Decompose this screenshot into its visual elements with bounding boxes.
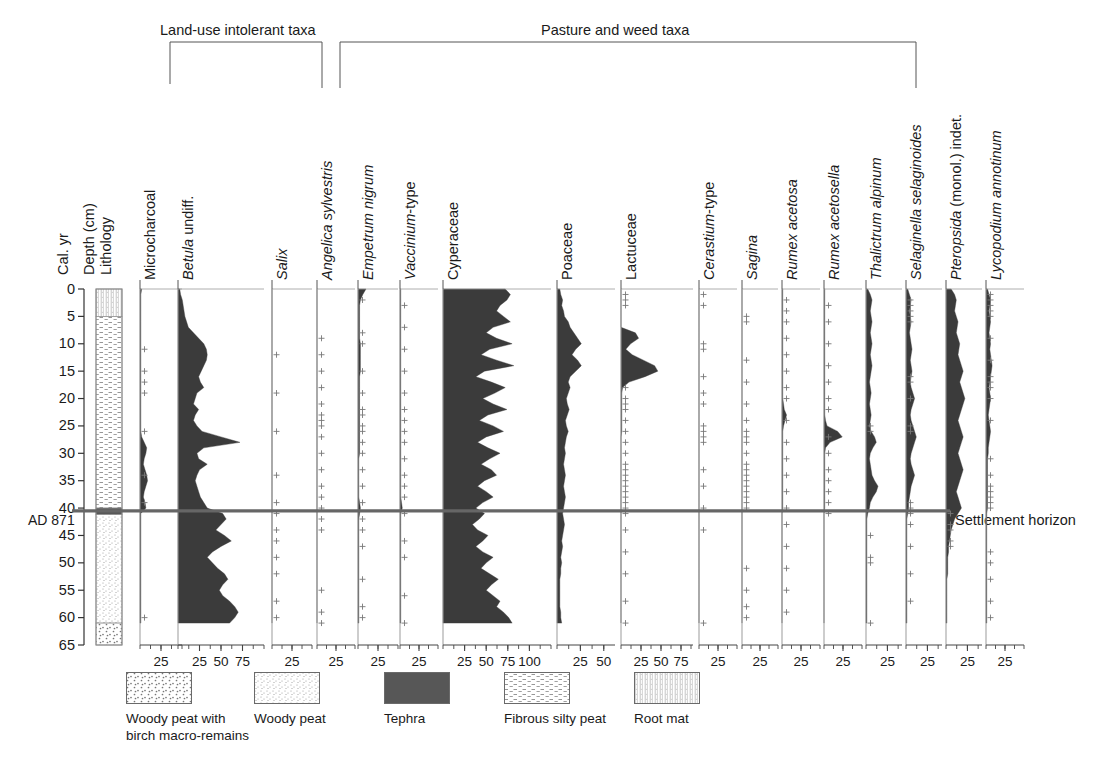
taxon-column: 255075 (178, 280, 264, 669)
taxon-column: 25 (986, 280, 1024, 669)
taxon-column: 255075 (621, 280, 693, 669)
legend-item: Fibrous silty peat (504, 672, 606, 726)
x-tick-label: 100 (518, 654, 541, 669)
taxon-column: 255075100 (443, 280, 551, 669)
legend-label: Woody peat (254, 711, 326, 726)
depth-tick-label: 65 (59, 637, 75, 653)
taxon-label: Cerastium-type (702, 182, 717, 280)
depth-tick-label: 0 (67, 281, 75, 297)
legend-item: Woody peat (254, 672, 326, 726)
x-tick-label: 25 (633, 654, 648, 669)
taxon-label: Rumex acetosella (827, 165, 842, 280)
depth-tick-label: 5 (67, 308, 75, 324)
taxon-label: Selaginella selaginoides (909, 124, 924, 280)
taxon-curve (557, 289, 581, 623)
taxon-column: 2550 (557, 280, 615, 669)
x-tick-label: 75 (673, 654, 688, 669)
x-tick-label: 50 (596, 654, 611, 669)
taxon-curve (906, 289, 916, 623)
depth-tick-label: 30 (59, 445, 75, 461)
plot-canvas: 0510152025303540455055606525255075252525… (0, 0, 1110, 700)
x-tick-label: 75 (235, 654, 250, 669)
legend-swatch-solid-grey (384, 672, 450, 704)
depth-tick-label: 35 (59, 472, 75, 488)
taxon-column: 25 (317, 280, 355, 669)
x-tick-label: 75 (500, 654, 515, 669)
taxon-column: 25 (782, 280, 820, 669)
depth-tick-label: 10 (59, 335, 75, 351)
depth-tick-label: 25 (59, 417, 75, 433)
legend-swatch-dots-coarse (126, 672, 192, 704)
taxon-column: 25 (272, 280, 312, 669)
lithology-column (96, 289, 122, 645)
legend-item: Tephra (384, 672, 450, 726)
taxon-label: Salix (275, 249, 290, 280)
depth-tick-label: 55 (59, 582, 75, 598)
depth-tick-label: 15 (59, 363, 75, 379)
taxon-label: Sagina (745, 235, 760, 280)
x-tick-label: 25 (370, 654, 385, 669)
x-tick-label: 50 (213, 654, 228, 669)
legend-item: Root mat (634, 672, 700, 726)
taxon-curve (140, 289, 148, 623)
taxon-column: 25 (140, 280, 182, 669)
legend-item: Woody peat withbirch macro-remains (126, 672, 249, 743)
taxon-column: 25 (824, 280, 862, 669)
taxon-label: Betula undiff. (181, 196, 196, 280)
taxon-label: Angelica sylvestris (320, 161, 335, 280)
taxon-curve (621, 289, 658, 623)
x-tick-label: 25 (192, 654, 207, 669)
taxon-label: Lactuceae (624, 213, 639, 280)
depth-tick-label: 20 (59, 390, 75, 406)
taxon-label: Cyperaceae (446, 202, 461, 280)
taxon-label: Poaceae (560, 223, 575, 280)
taxon-column: 25 (866, 280, 902, 669)
x-tick-label: 25 (710, 654, 725, 669)
taxon-curve (358, 289, 366, 623)
depth-tick-label: 40 (59, 500, 75, 516)
taxon-curve (946, 289, 965, 623)
x-tick-label: 25 (793, 654, 808, 669)
taxon-label: Pteropsida (monol.) indet. (949, 114, 964, 280)
x-tick-label: 25 (880, 654, 895, 669)
x-tick-label: 25 (153, 654, 168, 669)
x-tick-label: 25 (457, 654, 472, 669)
taxon-curve (782, 289, 787, 623)
taxon-curve (178, 289, 240, 623)
legend-label: Woody peat with (126, 711, 249, 726)
depth-tick-label: 45 (59, 527, 75, 543)
x-tick-label: 25 (835, 654, 850, 669)
taxon-curve (443, 289, 514, 623)
legend-swatch-dots-fine (254, 672, 320, 704)
x-tick-label: 25 (920, 654, 935, 669)
x-tick-label: 25 (573, 654, 588, 669)
depth-tick-label: 50 (59, 554, 75, 570)
taxon-label: Microcharcoal (143, 190, 158, 280)
lithology-legend: Woody peat withbirch macro-remainsWoody … (126, 672, 686, 742)
taxon-label: Vaccinium-type (403, 181, 418, 280)
x-tick-label: 25 (960, 654, 975, 669)
x-tick-label: 25 (997, 654, 1012, 669)
x-tick-label: 25 (284, 654, 299, 669)
taxon-curve (866, 289, 878, 623)
legend-swatch-vertical-stipple (634, 672, 700, 704)
taxon-column: 25 (400, 280, 438, 669)
x-tick-label: 50 (653, 654, 668, 669)
taxon-label: Lycopodium annotinum (989, 130, 1004, 280)
taxon-label: Empetrum nigrum (361, 165, 376, 280)
taxon-label: Thalictrum alpinum (869, 158, 884, 281)
depth-tick-label: 60 (59, 609, 75, 625)
x-tick-label: 25 (752, 654, 767, 669)
taxon-column: 25 (699, 280, 737, 669)
taxon-column: 25 (946, 280, 982, 669)
legend-swatch-dashes (504, 672, 570, 704)
taxon-curve (986, 289, 992, 623)
legend-label-line2: birch macro-remains (126, 728, 249, 743)
x-tick-label: 25 (328, 654, 343, 669)
legend-label: Root mat (634, 711, 700, 726)
taxon-label: Rumex acetosa (785, 179, 800, 280)
taxon-column: 25 (742, 280, 778, 669)
legend-label: Tephra (384, 711, 450, 726)
x-tick-label: 25 (411, 654, 426, 669)
taxon-column: 25 (906, 280, 942, 669)
